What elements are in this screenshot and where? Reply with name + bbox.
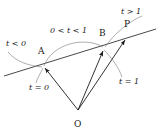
arc-t-eq-1 (104, 50, 122, 77)
point-label-A: A (38, 47, 45, 56)
arc-t-eq-0 (36, 68, 43, 83)
annotation-t-lt-0: t < 0 (6, 40, 26, 48)
diagram-canvas (0, 0, 160, 135)
point-label-P: P (124, 20, 130, 29)
point-label-B: B (99, 29, 106, 38)
vector-OA (45, 68, 78, 110)
annotation-t-eq-1: t = 1 (119, 78, 139, 86)
annotation-t-gt-1: t > 1 (121, 8, 141, 16)
line-through-points (4, 29, 156, 76)
vector-parametrization-figure: A B P O t < 0 0 < t < 1 t > 1 t = 0 t = … (0, 0, 160, 135)
point-label-O: O (74, 120, 81, 129)
annotation-t-eq-0: t = 0 (29, 84, 49, 92)
annotation-t-between: 0 < t < 1 (50, 27, 87, 35)
arc-t-between (44, 42, 103, 66)
arc-t-lt-0 (8, 52, 42, 67)
vector-OB (78, 51, 103, 110)
vector-OP (78, 40, 125, 110)
